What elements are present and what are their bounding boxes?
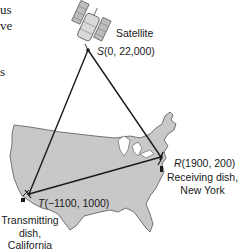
point-s-label: S(0, 22,000) bbox=[97, 45, 155, 57]
point-r-letter: R bbox=[174, 157, 182, 169]
point-r-marker bbox=[159, 155, 163, 159]
receiver-caption-line-1: Receiving dish, bbox=[164, 171, 241, 183]
point-r-label: R(1900, 200) bbox=[174, 157, 235, 169]
transmitter-caption-line-2: dish, bbox=[0, 227, 60, 239]
point-r-coords: (1900, 200) bbox=[182, 157, 236, 169]
satellite-icon bbox=[67, 0, 114, 46]
point-t-label: T(−1100, 1000) bbox=[38, 197, 109, 209]
point-t-coords: (−1100, 1000) bbox=[44, 197, 109, 209]
transmitter-caption-line-3: California bbox=[0, 239, 60, 251]
point-s-marker bbox=[86, 48, 90, 52]
point-t-marker bbox=[27, 192, 30, 195]
transmitter-caption-line-1: Transmitting bbox=[0, 214, 60, 226]
satellite-label: Satellite bbox=[116, 27, 153, 39]
receiver-caption-line-2: New York bbox=[164, 184, 241, 196]
satellite-triangle-figure: us ve s bbox=[0, 0, 241, 251]
point-s-letter: S bbox=[97, 45, 104, 57]
point-s-coords: (0, 22,000) bbox=[104, 45, 155, 57]
